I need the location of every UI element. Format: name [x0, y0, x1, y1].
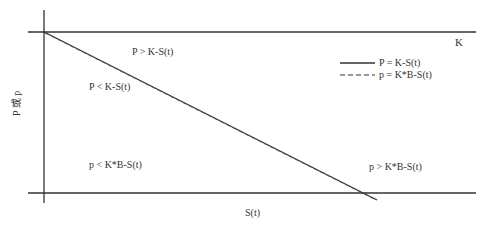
diagram-canvas: K S(t) P 或 p P > K-S(t) P < K-S(t) p < K…: [0, 0, 488, 227]
legend-dashed-label: p = K*B-S(t): [379, 69, 432, 81]
region-label-upper-right: P > K-S(t): [132, 46, 173, 58]
x-axis-label: S(t): [245, 207, 260, 219]
diagram-svg: K S(t) P 或 p P > K-S(t) P < K-S(t) p < K…: [0, 0, 488, 227]
region-label-lower-right: p > K*B-S(t): [369, 161, 422, 173]
payoff-line-solid: [44, 32, 377, 200]
legend-solid-label: P = K-S(t): [379, 57, 420, 69]
region-label-lower-left: p < K*B-S(t): [89, 159, 142, 171]
y-axis-label: P 或 p: [11, 91, 22, 116]
k-label: K: [455, 36, 463, 48]
legend: P = K-S(t) p = K*B-S(t): [340, 57, 432, 81]
region-label-upper-left: P < K-S(t): [89, 81, 130, 93]
